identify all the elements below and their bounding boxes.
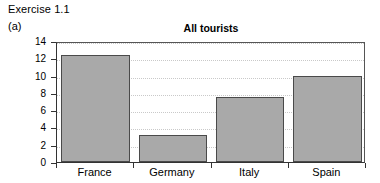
y-tick-mark bbox=[51, 146, 56, 147]
x-tick-label: France bbox=[56, 166, 133, 178]
bar-series bbox=[57, 43, 364, 162]
bar bbox=[61, 55, 129, 162]
bar bbox=[293, 76, 361, 162]
y-tick-label: 12 bbox=[16, 54, 46, 64]
chart-title: All tourists bbox=[56, 22, 366, 34]
plot-area bbox=[56, 42, 365, 163]
x-tick-label: Italy bbox=[211, 166, 288, 178]
y-tick-mark bbox=[51, 94, 56, 95]
y-tick-label: 10 bbox=[16, 72, 46, 82]
exercise-label: Exercise 1.1 bbox=[8, 3, 70, 15]
y-tick-mark bbox=[51, 42, 56, 43]
y-tick-label: 8 bbox=[16, 89, 46, 99]
y-tick-label: 6 bbox=[16, 106, 46, 116]
y-tick-label: 14 bbox=[16, 37, 46, 47]
y-tick-mark bbox=[51, 111, 56, 112]
y-tick-label: 4 bbox=[16, 123, 46, 133]
figure: Exercise 1.1 (a) All tourists 0246810121… bbox=[0, 0, 380, 183]
y-tick-mark bbox=[51, 59, 56, 60]
y-tick-label: 2 bbox=[16, 141, 46, 151]
y-tick-mark bbox=[51, 77, 56, 78]
part-label: (a) bbox=[8, 20, 21, 32]
bar bbox=[216, 97, 284, 162]
y-tick-label: 0 bbox=[16, 158, 46, 168]
x-tick-mark bbox=[365, 163, 366, 168]
x-tick-label: Germany bbox=[133, 166, 210, 178]
bar bbox=[139, 135, 207, 162]
y-tick-mark bbox=[51, 128, 56, 129]
x-tick-label: Spain bbox=[288, 166, 365, 178]
